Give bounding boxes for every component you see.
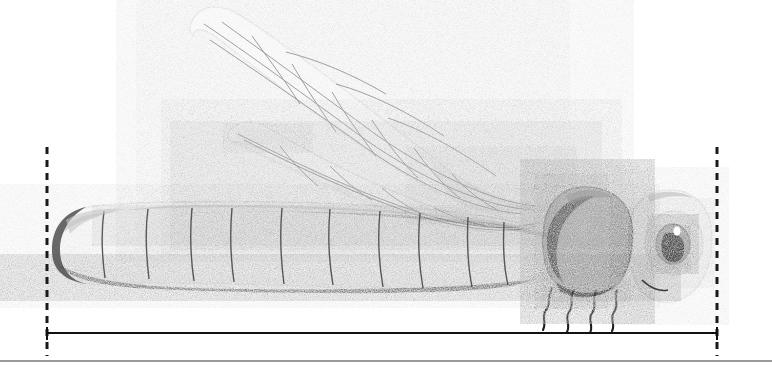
illustration-canvas (0, 0, 772, 370)
measurement-guides (0, 0, 772, 370)
